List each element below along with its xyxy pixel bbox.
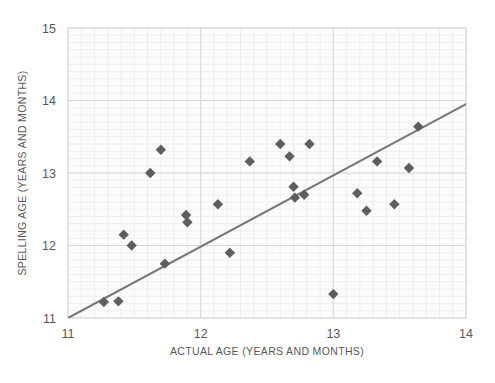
y-tick-label: 15	[42, 22, 56, 36]
chart-canvas: 11121314 1112131415 ACTUAL AGE (YEARS AN…	[0, 0, 495, 383]
y-tick-label: 12	[42, 239, 56, 253]
x-tick-label: 12	[194, 327, 208, 341]
y-tick-label: 11	[43, 312, 56, 326]
y-axis-title: SPELLING AGE (YEARS AND MONTHS)	[16, 70, 28, 275]
y-tick-label: 13	[42, 167, 56, 181]
x-tick-label: 14	[459, 327, 473, 341]
x-tick-label: 11	[62, 327, 75, 341]
scatter-chart: 11121314 1112131415 ACTUAL AGE (YEARS AN…	[0, 0, 495, 383]
x-tick-label: 13	[326, 327, 340, 341]
x-axis-title: ACTUAL AGE (YEARS AND MONTHS)	[170, 345, 364, 357]
y-tick-label: 14	[42, 94, 56, 108]
